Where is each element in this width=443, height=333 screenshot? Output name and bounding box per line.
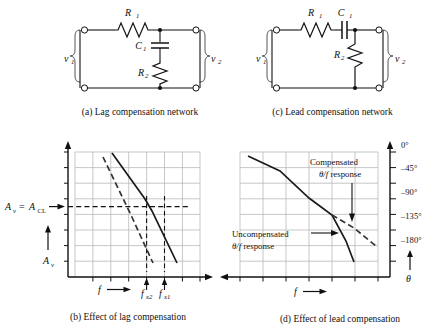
resistor-r1 [115, 23, 153, 37]
panel-a-circuit: R 1 C 1 R 2 v 1 v 2 [60, 2, 220, 102]
svg-text:f: f [294, 286, 298, 297]
svg-text:Uncompensated: Uncompensated [232, 229, 289, 239]
label-c1-subscript: 1 [349, 12, 352, 19]
label-fx1: f x1 [159, 278, 170, 300]
node-top-junction [353, 28, 357, 32]
label-r2-subscript: 2 [341, 54, 345, 61]
resistor-r1 [298, 23, 335, 37]
svg-text:x2: x2 [145, 293, 153, 300]
y-axis-arrow [65, 141, 71, 149]
panel-d-plot: 0° –45° –90° –135° –180° θ Compensated θ… [218, 138, 443, 298]
label-av-equals-acl: A v = A CL [4, 201, 65, 214]
label-r2: R [333, 49, 340, 60]
curve-compensated [332, 215, 376, 246]
svg-text:f: f [98, 284, 102, 295]
annotation-compensated: Compensated θ/f response [310, 157, 361, 222]
x-axis-arrow [205, 274, 213, 280]
panel-b-plot: A v = A CL A v f f x2 f x1 [0, 138, 222, 298]
svg-text:θ/f response: θ/f response [319, 169, 361, 179]
svg-text:Compensated: Compensated [310, 157, 358, 167]
terminal-out-top [376, 27, 382, 33]
terminal-in-top [81, 27, 87, 33]
label-fx2: f x2 [141, 278, 153, 300]
svg-text:θ: θ [406, 273, 411, 284]
label-v2: v [395, 53, 400, 64]
terminal-in-bottom [81, 85, 87, 91]
label-c1: C [338, 7, 345, 18]
label-v2-subscript: 2 [402, 58, 406, 65]
svg-text:f: f [159, 288, 163, 299]
v2-bracket [200, 30, 210, 82]
svg-text:f: f [141, 288, 145, 299]
svg-text:A: A [42, 255, 50, 266]
phase-tick-180: –180° [400, 235, 422, 245]
label-r1-subscript: 1 [319, 12, 322, 19]
phase-tick-45: –45° [400, 163, 418, 173]
label-v1: v [64, 53, 69, 64]
annotation-uncompensated: Uncompensated θ/f response [232, 229, 339, 251]
phase-axis-arrow [387, 141, 393, 149]
x-axis-arrow-left [220, 274, 228, 280]
svg-text:=: = [19, 201, 25, 212]
terminal-in-top [273, 27, 279, 33]
label-v1-subscript: 1 [263, 58, 266, 65]
label-r1: R [124, 7, 131, 18]
label-f-axis: f [98, 284, 131, 295]
label-theta-axis: θ [406, 250, 413, 284]
label-f-axis: f [294, 286, 327, 297]
phase-tick-135: –135° [400, 211, 422, 221]
label-v2-subscript: 2 [218, 58, 222, 65]
label-c1: C [135, 40, 142, 51]
resistor-r2 [153, 60, 167, 88]
panel-c-circuit: R 1 C 1 R 2 v 1 v 2 [250, 2, 415, 102]
label-r2-subscript: 2 [145, 72, 149, 79]
v1-bracket [70, 30, 80, 82]
terminal-out-bottom [376, 85, 382, 91]
panel-b-caption: (b) Effect of lag compensation [38, 312, 218, 322]
label-v2: v [211, 53, 216, 64]
svg-text:x1: x1 [163, 293, 170, 300]
v2-bracket [383, 30, 393, 82]
v1-bracket [262, 30, 272, 82]
svg-text:θ/f response: θ/f response [232, 241, 274, 251]
node-bottom-junction [158, 86, 162, 90]
phase-axis-ticks [390, 152, 396, 261]
phase-tick-0: 0° [401, 140, 409, 150]
annotation-compensated-arrow [349, 214, 355, 223]
label-r1-subscript: 1 [136, 12, 139, 19]
svg-text:A: A [4, 201, 12, 212]
resistor-r2 [348, 30, 362, 88]
panel-c-caption: (c) Lead compensation network [240, 107, 425, 117]
terminal-out-top [193, 27, 199, 33]
label-r1: R [307, 7, 314, 18]
label-av-axis: A v [42, 225, 54, 268]
svg-text:v: v [51, 261, 54, 268]
panel-a-caption: (a) Lag compensation network [50, 107, 230, 117]
label-r2: R [137, 67, 144, 78]
label-v1: v [256, 53, 261, 64]
terminal-in-bottom [273, 85, 279, 91]
panel-d-caption: (d) Effect of lead compensation [245, 314, 435, 324]
terminal-out-bottom [193, 85, 199, 91]
plot-grid [75, 152, 200, 277]
node-bottom-junction [353, 86, 357, 90]
label-v1-subscript: 1 [71, 58, 74, 65]
svg-text:CL: CL [38, 207, 47, 214]
svg-text:v: v [13, 207, 16, 214]
node-top-junction [158, 28, 162, 32]
label-c1-subscript: 1 [143, 45, 146, 52]
phase-tick-90: –90° [400, 187, 418, 197]
annotation-uncompensated-arrow [331, 230, 339, 236]
svg-text:A: A [28, 201, 36, 212]
